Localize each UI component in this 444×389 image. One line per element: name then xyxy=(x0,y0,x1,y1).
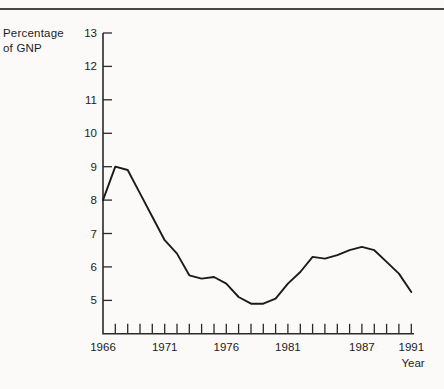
gnp-data-line xyxy=(103,167,411,304)
y-tick-label: 7 xyxy=(91,228,97,240)
x-tick-label: 1987 xyxy=(349,341,375,353)
y-tick-label: 6 xyxy=(91,261,97,273)
y-tick-label: 9 xyxy=(91,161,97,173)
y-tick-label: 8 xyxy=(91,194,97,206)
y-tick-label: 10 xyxy=(84,127,97,139)
x-tick-label: 1971 xyxy=(152,341,178,353)
y-tick-label: 13 xyxy=(84,27,97,39)
gnp-line-chart: 5678910111213196619711976198119871991 xyxy=(0,0,444,389)
x-tick-label: 1991 xyxy=(399,341,425,353)
x-axis-title: Year xyxy=(396,357,430,369)
axes xyxy=(103,33,414,334)
x-tick-label: 1966 xyxy=(90,341,116,353)
y-tick-label: 11 xyxy=(85,94,97,106)
x-tick-label: 1981 xyxy=(275,341,301,353)
x-tick-label: 1976 xyxy=(214,341,240,353)
y-tick-label: 12 xyxy=(84,60,97,72)
y-tick-label: 5 xyxy=(91,294,97,306)
figure-page: Percentage of GNP 5678910111213196619711… xyxy=(0,0,444,389)
